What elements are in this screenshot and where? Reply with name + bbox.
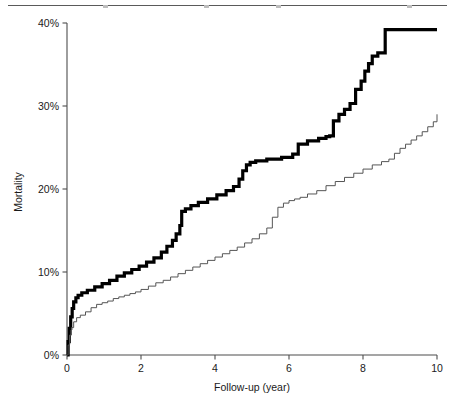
y-axis: 0%10%20%30%40% — [38, 17, 67, 361]
x-axis-title: Follow-up (year) — [214, 381, 290, 393]
data-series-group — [67, 30, 437, 355]
y-tick-label: 10% — [38, 266, 59, 278]
series-line-bold-curve — [67, 30, 437, 355]
x-tick-label: 0 — [64, 362, 70, 374]
x-tick-label: 10 — [431, 362, 443, 374]
y-tick-label: 40% — [38, 17, 59, 29]
x-tick-label: 2 — [138, 362, 144, 374]
y-axis-title: Mortality — [12, 171, 24, 211]
x-tick-label: 6 — [286, 362, 292, 374]
y-tick-label: 30% — [38, 100, 59, 112]
chart-canvas: 0%10%20%30%40% 0246810 Follow-up (year) … — [0, 0, 455, 403]
x-tick-label: 8 — [360, 362, 366, 374]
y-tick-label: 0% — [44, 349, 59, 361]
series-line-thin-curve — [67, 114, 437, 355]
kaplan-meier-chart: 0%10%20%30%40% 0246810 Follow-up (year) … — [0, 0, 455, 403]
y-tick-label: 20% — [38, 183, 59, 195]
x-axis: 0246810 — [64, 355, 443, 374]
x-tick-label: 4 — [212, 362, 218, 374]
